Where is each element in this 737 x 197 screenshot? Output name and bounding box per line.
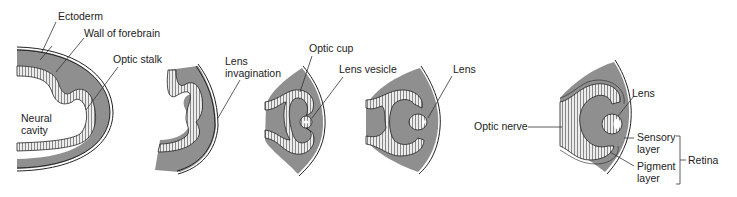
label-optic-nerve: Optic nerve xyxy=(474,120,528,132)
panel-5-retina: Lens Optic nerve Sensory layer Pigment l… xyxy=(474,60,719,184)
label-optic-cup: Optic cup xyxy=(309,42,354,54)
panel-2-lens-invagination: Lens invagination xyxy=(155,55,281,174)
label-lens-vesicle: Lens vesicle xyxy=(339,63,397,75)
panel-4-lens: Lens xyxy=(366,63,476,174)
panel-1-optic-vesicle: Ectoderm Wall of forebrain Optic stalk N… xyxy=(17,10,163,171)
label-retina: Retina xyxy=(688,154,719,166)
label-cavity: cavity xyxy=(21,124,49,136)
label-sensory-layer: layer xyxy=(637,143,660,155)
label-ectoderm: Ectoderm xyxy=(58,10,103,22)
label-wall-of-forebrain: Wall of forebrain xyxy=(84,27,160,39)
label-lens-panel4: Lens xyxy=(453,63,476,75)
label-lens-panel5: Lens xyxy=(632,87,655,99)
retina-bracket xyxy=(676,136,680,184)
label-pigment-layer: layer xyxy=(637,172,660,184)
eye-development-diagram: Ectoderm Wall of forebrain Optic stalk N… xyxy=(0,0,737,197)
label-pigment: Pigment xyxy=(637,160,676,172)
label-invagination: invagination xyxy=(225,67,281,79)
label-sensory: Sensory xyxy=(637,131,676,143)
label-neural: Neural xyxy=(21,112,52,124)
label-optic-stalk: Optic stalk xyxy=(113,53,163,65)
label-lens: Lens xyxy=(225,55,248,67)
